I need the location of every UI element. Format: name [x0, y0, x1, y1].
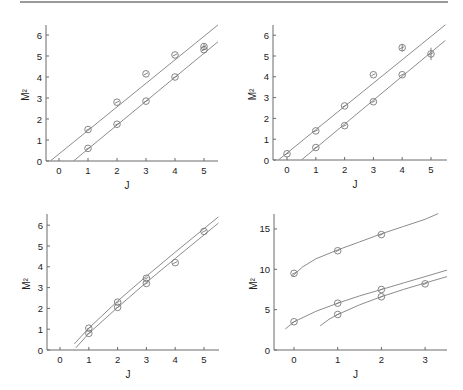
y-tick-label: 2 — [264, 113, 269, 124]
x-tick-label: 1 — [85, 165, 90, 176]
x-tick-label: 0 — [284, 164, 289, 175]
x-tick-label: 0 — [57, 354, 62, 365]
y-tick-label: 4 — [37, 72, 42, 83]
y-tick-label: 5 — [38, 241, 43, 252]
y-tick-label: 6 — [38, 220, 43, 231]
y-tick-label: 0 — [264, 155, 269, 166]
y-axis-label: M² — [247, 88, 258, 100]
y-tick-label: 5 — [264, 51, 269, 62]
x-tick-label: 0 — [56, 165, 61, 176]
x-tick-label: 1 — [313, 164, 318, 175]
x-axis-label: J — [126, 369, 131, 380]
y-tick-label: 1 — [38, 324, 43, 335]
y-tick-label: 0 — [37, 156, 42, 167]
y-tick-label: 3 — [264, 92, 269, 103]
x-tick-label: 2 — [379, 354, 384, 365]
fit-line — [50, 25, 218, 162]
y-tick-label: 15 — [259, 223, 270, 234]
x-tick-label: 3 — [371, 164, 376, 175]
fit-line — [278, 25, 445, 160]
panel-top-left: 0123456012345JM² — [20, 25, 219, 192]
x-tick-label: 5 — [201, 165, 206, 176]
x-tick-label: 0 — [291, 354, 296, 365]
x-tick-label: 2 — [114, 165, 119, 176]
x-tick-label: 3 — [144, 354, 149, 365]
y-tick-label: 3 — [37, 93, 42, 104]
x-axis-label: J — [353, 369, 358, 380]
y-tick-label: 3 — [38, 282, 43, 293]
y-tick-label: 4 — [38, 261, 43, 272]
y-axis-label: M² — [20, 89, 31, 101]
x-tick-label: 4 — [172, 165, 177, 176]
y-tick-label: 5 — [265, 304, 270, 315]
y-tick-label: 6 — [37, 30, 42, 41]
x-axis-label: J — [353, 179, 358, 190]
y-axis-label: M² — [248, 278, 259, 290]
fit-line — [285, 270, 447, 329]
y-axis-label: M² — [21, 278, 32, 290]
x-tick-label: 3 — [422, 354, 427, 365]
x-tick-label: 2 — [342, 164, 347, 175]
y-tick-label: 0 — [265, 345, 270, 356]
x-tick-label: 1 — [335, 354, 340, 365]
panel-bottom-right: 0510150123JM² — [248, 214, 447, 380]
x-tick-label: 2 — [115, 354, 120, 365]
fit-line — [292, 214, 438, 277]
x-tick-label: 5 — [201, 354, 206, 365]
x-axis-label: J — [125, 180, 130, 191]
y-tick-label: 5 — [37, 51, 42, 62]
fit-line — [301, 40, 445, 160]
y-tick-label: 0 — [38, 345, 43, 356]
x-tick-label: 4 — [173, 354, 178, 365]
y-tick-label: 6 — [264, 30, 269, 41]
y-tick-label: 1 — [37, 135, 42, 146]
x-tick-label: 3 — [143, 165, 148, 176]
y-tick-label: 4 — [264, 71, 269, 82]
y-tick-label: 2 — [37, 114, 42, 125]
figure: 0123456012345JM²0123456012345JM²01234560… — [0, 0, 463, 390]
y-tick-label: 1 — [264, 134, 269, 145]
x-tick-label: 5 — [428, 164, 433, 175]
panel-top-right: 0123456012345JM² — [247, 25, 447, 190]
x-tick-label: 4 — [400, 164, 405, 175]
panel-bottom-left: 0123456012345JM² — [21, 214, 219, 380]
fit-line — [76, 223, 219, 348]
y-tick-label: 10 — [259, 264, 270, 275]
y-tick-label: 2 — [38, 303, 43, 314]
x-tick-label: 1 — [86, 354, 91, 365]
